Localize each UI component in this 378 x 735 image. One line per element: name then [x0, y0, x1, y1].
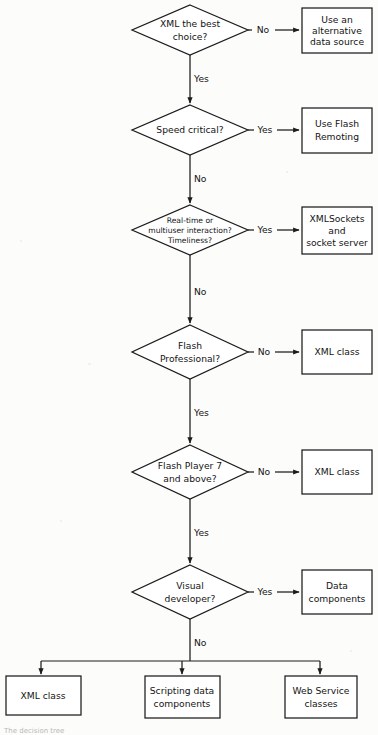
decision-label-line3: Timeliness?: [167, 236, 212, 245]
decision-label-line1: Flash Player 7: [158, 460, 223, 471]
edge-label-no-6: No: [194, 637, 207, 648]
decision-label-line2: Professional?: [160, 353, 220, 364]
decision-xml-best-choice[interactable]: XML the best choice?: [132, 5, 248, 55]
outcome-label-line1: Use Flash: [315, 118, 359, 129]
decision-realtime-multiuser[interactable]: Real-time or multiuser interaction? Time…: [132, 205, 248, 255]
decision-label-line1: Visual: [176, 580, 203, 591]
edge-label-yes-6: Yes: [257, 586, 273, 597]
decision-flash-professional[interactable]: Flash Professional?: [132, 325, 248, 379]
decision-visual-developer[interactable]: Visual developer?: [132, 565, 248, 619]
outcome-xml-class-3[interactable]: XML class: [6, 676, 81, 715]
decision-label-line1: Speed critical?: [156, 124, 223, 135]
edge-label-yes-2: Yes: [257, 124, 273, 135]
outcome-label-line1: Scripting data: [150, 685, 214, 696]
outcome-label-line1: XML class: [314, 466, 359, 477]
decision-label-line1: Flash: [178, 340, 202, 351]
outcome-label-line2: alternative: [312, 25, 362, 36]
outcome-label-line3: socket server: [306, 237, 368, 248]
decision-label-line1: Real-time or: [167, 216, 214, 225]
outcome-data-components[interactable]: Data components: [302, 570, 372, 614]
edge-label-yes-4: Yes: [193, 407, 209, 418]
outcome-label-line1: XMLSockets: [310, 213, 365, 224]
decision-label-line2: multiuser interaction?: [148, 226, 231, 235]
edge-label-yes-1: Yes: [193, 73, 209, 84]
outcome-web-service-classes[interactable]: Web Service classes: [285, 676, 357, 718]
outcome-label-line2: components: [309, 593, 366, 604]
outcome-label-line1: Web Service: [293, 685, 350, 696]
edge-label-no-2: No: [194, 173, 207, 184]
outcome-label-line1: Use an: [321, 14, 353, 25]
flowchart-svg: XML the best choice? No Yes Use an alter…: [0, 0, 378, 735]
outcome-xml-class-2[interactable]: XML class: [302, 450, 372, 494]
outcome-xml-class-1[interactable]: XML class: [302, 330, 372, 374]
outcome-label-line2: and: [328, 225, 345, 236]
outcome-scripting-data-components[interactable]: Scripting data components: [145, 676, 220, 718]
edge-label-no-5: No: [258, 466, 271, 477]
outcome-alternative-data-source[interactable]: Use an alternative data source: [302, 8, 372, 53]
outcome-label-line1: XML class: [314, 346, 359, 357]
decision-speed-critical[interactable]: Speed critical?: [132, 105, 248, 155]
edge-label-no-4: No: [258, 346, 271, 357]
decision-label-line2: choice?: [173, 31, 208, 42]
edge-label-yes-3: Yes: [257, 224, 273, 235]
figure-caption: The decision tree: [3, 727, 64, 735]
outcome-label-line2: components: [154, 698, 211, 709]
edge-label-no-1: No: [257, 24, 270, 35]
decision-label-line2: and above?: [163, 473, 216, 484]
outcome-label-line1: Data: [326, 580, 348, 591]
decision-label-line2: developer?: [165, 593, 216, 604]
outcome-label-line2: Remoting: [315, 131, 359, 142]
decision-flash-player-7[interactable]: Flash Player 7 and above?: [132, 445, 248, 499]
outcome-label-line2: classes: [304, 698, 337, 709]
decision-label-line1: XML the best: [160, 18, 221, 29]
outcome-label-line3: data source: [310, 36, 364, 47]
figure-canvas: XML the best choice? No Yes Use an alter…: [0, 0, 378, 735]
edge-label-yes-5: Yes: [193, 527, 209, 538]
outcome-label-line1: XML class: [20, 690, 65, 701]
outcome-xmlsockets[interactable]: XMLSockets and socket server: [302, 207, 372, 254]
edge-label-no-3: No: [194, 286, 207, 297]
outcome-flash-remoting[interactable]: Use Flash Remoting: [302, 108, 372, 153]
